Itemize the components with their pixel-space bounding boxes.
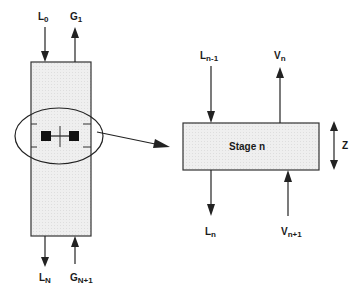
label-LN: LN bbox=[39, 273, 51, 285]
stage-title: Stage n bbox=[229, 141, 265, 152]
label-Ln: Ln bbox=[205, 227, 216, 239]
arrow-down-icon bbox=[207, 111, 215, 123]
label-GN1: GN+1 bbox=[70, 273, 93, 285]
diagram-canvas bbox=[0, 0, 358, 291]
label-Vn1: Vn+1 bbox=[281, 227, 302, 239]
arrow-down-icon bbox=[207, 204, 215, 216]
label-Ln-1: Ln-1 bbox=[200, 51, 218, 63]
arrow-down-icon bbox=[330, 160, 338, 170]
arrow-up-icon bbox=[284, 170, 292, 182]
column bbox=[15, 27, 103, 267]
arrow-up-icon bbox=[71, 27, 79, 38]
label-Vn: Vn bbox=[274, 51, 286, 63]
zoom-pointer-arrow bbox=[97, 132, 170, 148]
arrow-up-icon bbox=[330, 121, 338, 131]
arrow-up-icon bbox=[276, 67, 284, 78]
arrow-right-icon bbox=[153, 139, 170, 148]
arrow-up-icon bbox=[71, 236, 79, 247]
arrow-down-icon bbox=[41, 51, 49, 62]
label-G1: G1 bbox=[70, 12, 82, 24]
label-z: Z bbox=[342, 141, 348, 151]
z-axis-double-arrow bbox=[330, 121, 338, 170]
column-body bbox=[31, 62, 91, 236]
arrow-down-icon bbox=[41, 257, 49, 267]
label-L0: L0 bbox=[38, 12, 49, 24]
